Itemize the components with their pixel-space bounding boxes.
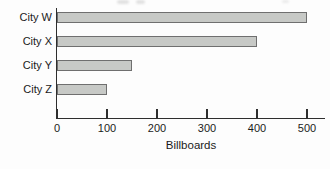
x-axis-tick — [156, 109, 157, 118]
x-axis-tick — [256, 109, 257, 118]
cropped-title-fragment — [282, 0, 289, 3]
x-axis-tick — [56, 109, 57, 118]
cropped-title-fragment — [136, 0, 145, 4]
category-label: City Y — [2, 58, 52, 72]
bar-city-x — [57, 36, 257, 47]
x-tick-label: 300 — [187, 122, 227, 135]
x-tick-label: 0 — [37, 122, 77, 135]
bar-city-z — [57, 84, 107, 95]
cropped-title-fragment — [117, 0, 129, 4]
bar-city-w — [57, 12, 307, 23]
category-label: City Z — [2, 82, 52, 96]
x-axis-tick — [306, 109, 307, 118]
category-label: City W — [2, 10, 52, 24]
category-label: City X — [2, 34, 52, 48]
x-tick-label: 400 — [237, 122, 277, 135]
x-tick-label: 200 — [137, 122, 177, 135]
x-axis-tick — [206, 109, 207, 118]
x-axis-title: Billboards — [56, 139, 326, 151]
bar-city-y — [57, 60, 132, 71]
x-tick-label: 100 — [87, 122, 127, 135]
screenshot: 0100200300400500City WCity XCity YCity Z… — [0, 0, 330, 169]
x-axis-tick — [106, 109, 107, 118]
billboards-bar-chart: 0100200300400500City WCity XCity YCity Z… — [0, 0, 330, 169]
x-tick-label: 500 — [287, 122, 327, 135]
x-axis-line — [56, 118, 325, 119]
